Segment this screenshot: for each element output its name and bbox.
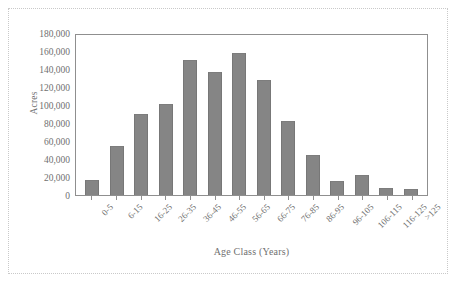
bar[interactable] [232, 53, 246, 195]
bar-slot [374, 35, 399, 195]
x-axis-title: Age Class (Years) [75, 246, 428, 257]
y-axis-tick-label: 20,000 [24, 173, 70, 183]
bar-slot [227, 35, 252, 195]
y-axis-tick-label: 180,000 [24, 29, 70, 39]
bar-slot [154, 35, 179, 195]
y-axis-tick-label: 120,000 [24, 83, 70, 93]
bar-slot [105, 35, 130, 195]
bar[interactable] [183, 60, 197, 195]
bar-slot [276, 35, 301, 195]
bar-slot [399, 35, 424, 195]
y-axis-tick-label: 0 [24, 191, 70, 201]
bar[interactable] [404, 189, 418, 195]
y-axis-tick-label: 140,000 [24, 65, 70, 75]
x-axis-tick-label: 66-75 [275, 202, 297, 224]
bar[interactable] [281, 121, 295, 195]
chart-figure: Acres 020,00040,00060,00080,000100,00012… [0, 0, 458, 284]
x-axis-tick-label: 36-45 [201, 202, 223, 224]
y-axis-tick-label: 40,000 [24, 155, 70, 165]
x-axis-tick-label: 86-95 [324, 202, 346, 224]
bar[interactable] [134, 114, 148, 195]
x-axis-tick-label: 6-15 [126, 202, 145, 221]
bar-slot [252, 35, 277, 195]
bar[interactable] [330, 181, 344, 195]
bar-slot [203, 35, 228, 195]
bar-slot [325, 35, 350, 195]
y-axis-tick-label: 60,000 [24, 137, 70, 147]
x-axis-tick-label: 96-105 [350, 202, 375, 227]
bar[interactable] [306, 155, 320, 196]
x-axis-tick-label: 56-65 [250, 202, 272, 224]
bar-slot [129, 35, 154, 195]
y-axis-tick-labels: 020,00040,00060,00080,000100,000120,0001… [24, 0, 70, 284]
x-axis-tick-label: 26-35 [176, 202, 198, 224]
bar[interactable] [85, 180, 99, 195]
x-axis-tick-label: 16-25 [152, 202, 174, 224]
bar[interactable] [355, 175, 369, 195]
bar-slot [301, 35, 326, 195]
y-axis-tick-label: 100,000 [24, 101, 70, 111]
bar[interactable] [379, 188, 393, 195]
x-axis-tick-label: 106-115 [376, 202, 404, 230]
x-axis-tick-label: 0-5 [100, 202, 116, 218]
bar-slot [350, 35, 375, 195]
bar[interactable] [159, 104, 173, 195]
bar[interactable] [257, 80, 271, 195]
bar[interactable] [110, 146, 124, 195]
y-axis-tick-label: 160,000 [24, 47, 70, 57]
bars-container [76, 35, 427, 195]
plot-area [75, 34, 428, 196]
bar[interactable] [208, 72, 222, 195]
x-axis-tick-label: 76-85 [300, 202, 322, 224]
bar-slot [178, 35, 203, 195]
x-axis-tick-label: 46-55 [226, 202, 248, 224]
bar-slot [80, 35, 105, 195]
y-axis-tick-label: 80,000 [24, 119, 70, 129]
x-axis-tick-labels: 0-56-1516-2526-3536-4546-5556-6566-7576-… [75, 200, 428, 246]
